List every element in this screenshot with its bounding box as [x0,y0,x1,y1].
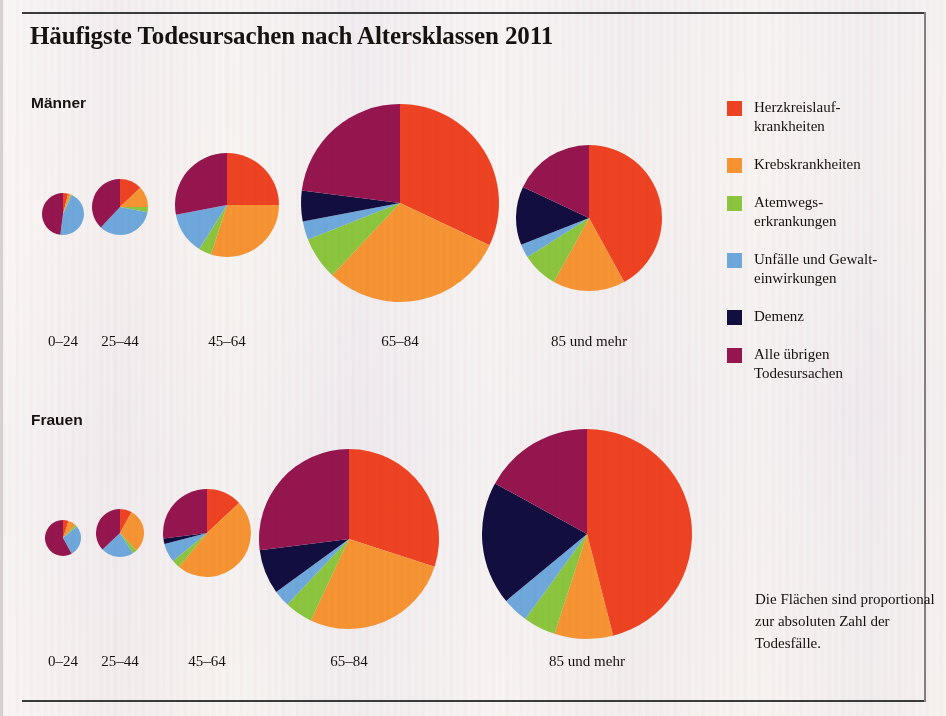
age-label-men-4: 85 und mehr [551,333,627,350]
pie-wrapper-men-4 [514,143,664,293]
page-rule-top [22,12,924,14]
pie-women-1 [94,507,146,559]
pie-slice-herzkreislaufkrankheiten [227,153,279,205]
age-label-men-0: 0–24 [48,333,78,350]
age-label-women-0: 0–24 [48,653,78,670]
age-label-men-2: 45–64 [208,333,246,350]
age-label-women-4: 85 und mehr [549,653,625,670]
legend-label-uebrige: Alle übrigen Todesursachen [754,345,843,383]
legend: Herzkreislauf- krankheitenKrebskrankheit… [727,98,927,402]
pie-men-4 [514,143,664,293]
legend-item-atemwege: Atemwegs- erkrankungen [727,193,927,231]
legend-label-krebs: Krebskrankheiten [754,155,861,174]
legend-swatch-krebs [727,158,742,173]
legend-item-herzkreislauf: Herzkreislauf- krankheiten [727,98,927,136]
legend-label-atemwege: Atemwegs- erkrankungen [754,193,836,231]
legend-label-unfaelle: Unfälle und Gewalt- einwirkungen [754,250,877,288]
pie-slice-alle-brigen-todesursachen [163,489,207,539]
panel-label-men: Männer [31,94,86,112]
chart-note: Die Flächen sind proportional zur absolu… [755,588,940,654]
pie-wrapper-women-4 [480,427,694,641]
pie-men-0 [40,191,86,237]
pie-wrapper-men-0 [40,191,86,237]
pie-wrapper-men-1 [90,177,150,237]
legend-label-demenz: Demenz [754,307,804,326]
pie-slice-alle-brigen-todesursachen [259,449,349,550]
legend-swatch-atemwege [727,196,742,211]
pie-wrapper-women-1 [94,507,146,559]
age-label-women-3: 65–84 [330,653,368,670]
page-title: Häufigste Todesursachen nach Altersklass… [30,22,553,50]
pie-wrapper-men-3 [299,102,501,304]
age-label-men-1: 25–44 [101,333,139,350]
pie-women-2 [161,487,253,579]
pie-women-4 [480,427,694,641]
legend-label-herzkreislauf: Herzkreislauf- krankheiten [754,98,841,136]
page-rule-left [0,0,3,716]
pie-wrapper-women-2 [161,487,253,579]
legend-swatch-herzkreislauf [727,101,742,116]
pie-slice-alle-brigen-todesursachen [42,193,63,235]
page-rule-bottom [22,700,924,702]
legend-swatch-demenz [727,310,742,325]
legend-item-uebrige: Alle übrigen Todesursachen [727,345,927,383]
age-label-women-2: 45–64 [188,653,226,670]
panel-label-women: Frauen [31,411,83,429]
pie-slice-alle-brigen-todesursachen [302,104,400,203]
pie-men-2 [173,151,281,259]
legend-swatch-unfaelle [727,253,742,268]
age-label-men-3: 65–84 [381,333,419,350]
legend-item-unfaelle: Unfälle und Gewalt- einwirkungen [727,250,927,288]
pie-wrapper-men-2 [173,151,281,259]
pie-slice-alle-brigen-todesursachen [175,153,227,215]
pie-wrapper-women-0 [43,518,83,558]
legend-item-krebs: Krebskrankheiten [727,155,927,174]
chart-page: Häufigste Todesursachen nach Altersklass… [0,0,946,716]
pie-wrapper-women-3 [257,447,441,631]
pie-women-3 [257,447,441,631]
pie-men-1 [90,177,150,237]
legend-swatch-uebrige [727,348,742,363]
pie-women-0 [43,518,83,558]
age-label-women-1: 25–44 [101,653,139,670]
pie-men-3 [299,102,501,304]
legend-item-demenz: Demenz [727,307,927,326]
